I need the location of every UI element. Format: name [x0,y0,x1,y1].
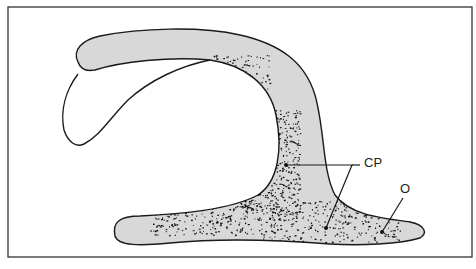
cp-pointer-dot [284,163,288,167]
label-cp: CP [364,155,382,170]
cp-pointer-dot [324,226,328,230]
inner-loop-outline [63,60,210,145]
label-o: O [400,181,410,196]
curved-body [76,29,424,245]
o-pointer-dot [380,230,384,234]
diagram-figure: CP O [0,0,476,269]
